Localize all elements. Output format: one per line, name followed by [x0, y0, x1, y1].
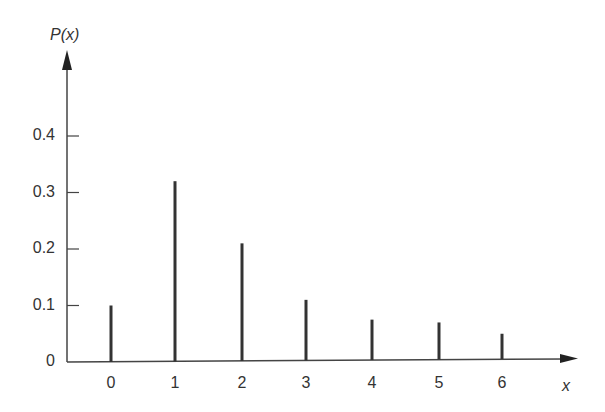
y-axis-title: P(x)	[50, 27, 79, 43]
y-tick-label: 0.4	[15, 127, 55, 143]
y-ticks	[67, 136, 79, 306]
x-tick-label: 6	[492, 375, 512, 391]
y-tick-label: 0.1	[15, 297, 55, 313]
x-axis-arrow-icon	[560, 354, 578, 363]
x-tick-label: 1	[165, 375, 185, 391]
axes	[62, 50, 578, 363]
x-axis-title: x	[562, 378, 570, 394]
x-tick-label: 2	[232, 375, 252, 391]
x-tick-label: 4	[362, 375, 382, 391]
x-axis	[67, 359, 565, 362]
x-tick-label: 3	[296, 375, 316, 391]
stems	[111, 181, 502, 362]
x-tick-label: 5	[429, 375, 449, 391]
y-tick-label: 0.2	[15, 240, 55, 256]
y-axis-arrow-icon	[62, 50, 72, 70]
y-tick-label: 0	[15, 353, 55, 369]
y-tick-label: 0.3	[15, 184, 55, 200]
x-tick-label: 0	[101, 375, 121, 391]
chart-plot-area	[0, 0, 605, 412]
